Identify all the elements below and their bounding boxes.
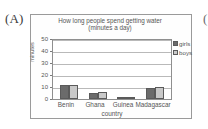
y-tick-mark <box>50 63 52 64</box>
y-tick-mark <box>50 75 52 76</box>
bar-guinea-boys[interactable] <box>126 97 135 99</box>
y-tick-mark <box>50 51 52 52</box>
bar-group-benin <box>60 40 80 99</box>
legend-swatch-boys-icon <box>173 50 178 55</box>
bar-group-ghana <box>89 40 109 99</box>
panel-label-next: ( <box>203 11 208 27</box>
panel-label-a: (A) <box>5 11 24 27</box>
bar-group-guinea <box>117 40 137 99</box>
y-tick-label: 30 <box>34 60 48 66</box>
bar-madagascar-girls[interactable] <box>146 88 155 99</box>
legend-swatch-girls-icon <box>173 41 178 46</box>
bars-layer <box>53 40 171 99</box>
chart-title-line1: How long people spend getting water <box>58 17 162 24</box>
legend-item-boys[interactable]: boys <box>173 48 192 57</box>
y-tick-label: 0 <box>34 96 48 102</box>
chart-legend: girls boys <box>173 39 192 57</box>
y-tick-mark <box>50 39 52 40</box>
bar-madagascar-boys[interactable] <box>155 87 164 99</box>
bar-guinea-girls[interactable] <box>117 97 126 99</box>
y-tick-label: 40 <box>34 48 48 54</box>
y-tick-label: 10 <box>34 84 48 90</box>
x-tick-madagascar: Madagascar <box>131 101 175 108</box>
chart-title: How long people spend getting water (min… <box>43 17 177 32</box>
bar-ghana-girls[interactable] <box>89 93 98 99</box>
legend-item-girls[interactable]: girls <box>173 39 192 48</box>
bar-group-madagascar <box>146 40 166 99</box>
y-tick-mark <box>50 99 52 100</box>
bar-benin-girls[interactable] <box>60 85 69 99</box>
chart-container: How long people spend getting water (min… <box>30 14 192 119</box>
legend-label-boys: boys <box>179 50 192 56</box>
bar-ghana-boys[interactable] <box>98 92 107 99</box>
y-tick-label: 20 <box>34 72 48 78</box>
x-axis-label: country <box>52 110 172 117</box>
bar-benin-boys[interactable] <box>69 85 78 99</box>
chart-title-line2: (minutes a day) <box>43 24 177 31</box>
y-tick-mark <box>50 87 52 88</box>
y-tick-label: 50 <box>34 36 48 42</box>
legend-label-girls: girls <box>179 41 190 47</box>
